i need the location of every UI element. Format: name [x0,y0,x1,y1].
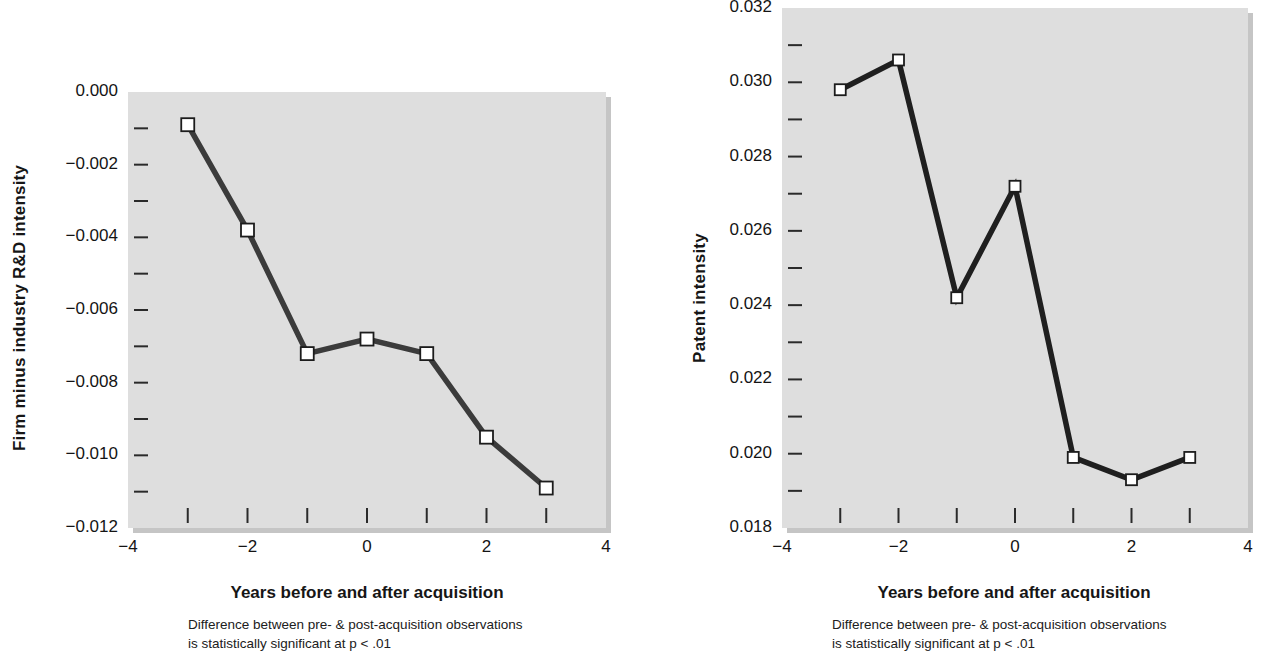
y-tick-label: −0.004 [18,226,118,246]
y-tick-label: −0.010 [18,444,118,464]
data-point-marker [1184,452,1195,463]
y-tick-label: 0.028 [672,146,772,166]
data-point-marker [361,333,374,346]
x-tick-label: 2 [1102,537,1162,557]
data-point-marker [181,118,194,131]
x-tick-label: −4 [98,537,158,557]
y-tick-label: 0.018 [672,517,772,537]
plot-svg-left [128,92,606,528]
series-line [840,60,1190,480]
plot-area-right [782,8,1248,528]
data-point-marker [1010,181,1021,192]
x-tick-label: 4 [576,537,636,557]
data-point-marker [241,224,254,237]
y-tick-label: 0.032 [672,0,772,17]
data-point-marker [951,292,962,303]
caption-right: Difference between pre- & post-acquisiti… [832,615,1166,653]
y-tick-label: −0.008 [18,372,118,392]
x-axis-title-right: Years before and after acquisition [814,583,1214,603]
caption-line-2: is statistically significant at p < .01 [832,634,1166,653]
plot-svg-right [782,8,1248,528]
data-point-marker [420,347,433,360]
y-tick-label: 0.024 [672,294,772,314]
chart-panel-right: Patent intensity 0.0320.0300.0280.0260.0… [640,0,1266,669]
y-tick-label: 0.020 [672,443,772,463]
data-point-marker [893,55,904,66]
data-point-marker [301,347,314,360]
y-tick-label: −0.012 [18,517,118,537]
caption-line-2: is statistically significant at p < .01 [188,634,522,653]
chart-panel-left: Firm minus industry R&D intensity 0.000−… [0,0,640,669]
data-point-marker [1068,452,1079,463]
plot-area-left [128,92,606,528]
y-tick-label: −0.006 [18,299,118,319]
x-tick-label: −2 [869,537,929,557]
figure-container: Firm minus industry R&D intensity 0.000−… [0,0,1266,669]
y-tick-label: −0.002 [18,154,118,174]
y-tick-label: 0.030 [672,71,772,91]
x-tick-label: 0 [337,537,397,557]
x-tick-label: −4 [752,537,812,557]
x-tick-label: −2 [218,537,278,557]
data-point-marker [1126,474,1137,485]
x-tick-label: 0 [985,537,1045,557]
x-tick-label: 2 [457,537,517,557]
caption-left: Difference between pre- & post-acquisiti… [188,615,522,653]
data-point-marker [835,84,846,95]
caption-line-1: Difference between pre- & post-acquisiti… [188,615,522,634]
x-tick-label: 4 [1218,537,1266,557]
y-tick-label: 0.026 [672,220,772,240]
data-point-marker [480,431,493,444]
y-tick-label: 0.022 [672,368,772,388]
caption-line-1: Difference between pre- & post-acquisiti… [832,615,1166,634]
x-axis-title-left: Years before and after acquisition [167,583,567,603]
data-point-marker [540,482,553,495]
y-tick-label: 0.000 [18,81,118,101]
